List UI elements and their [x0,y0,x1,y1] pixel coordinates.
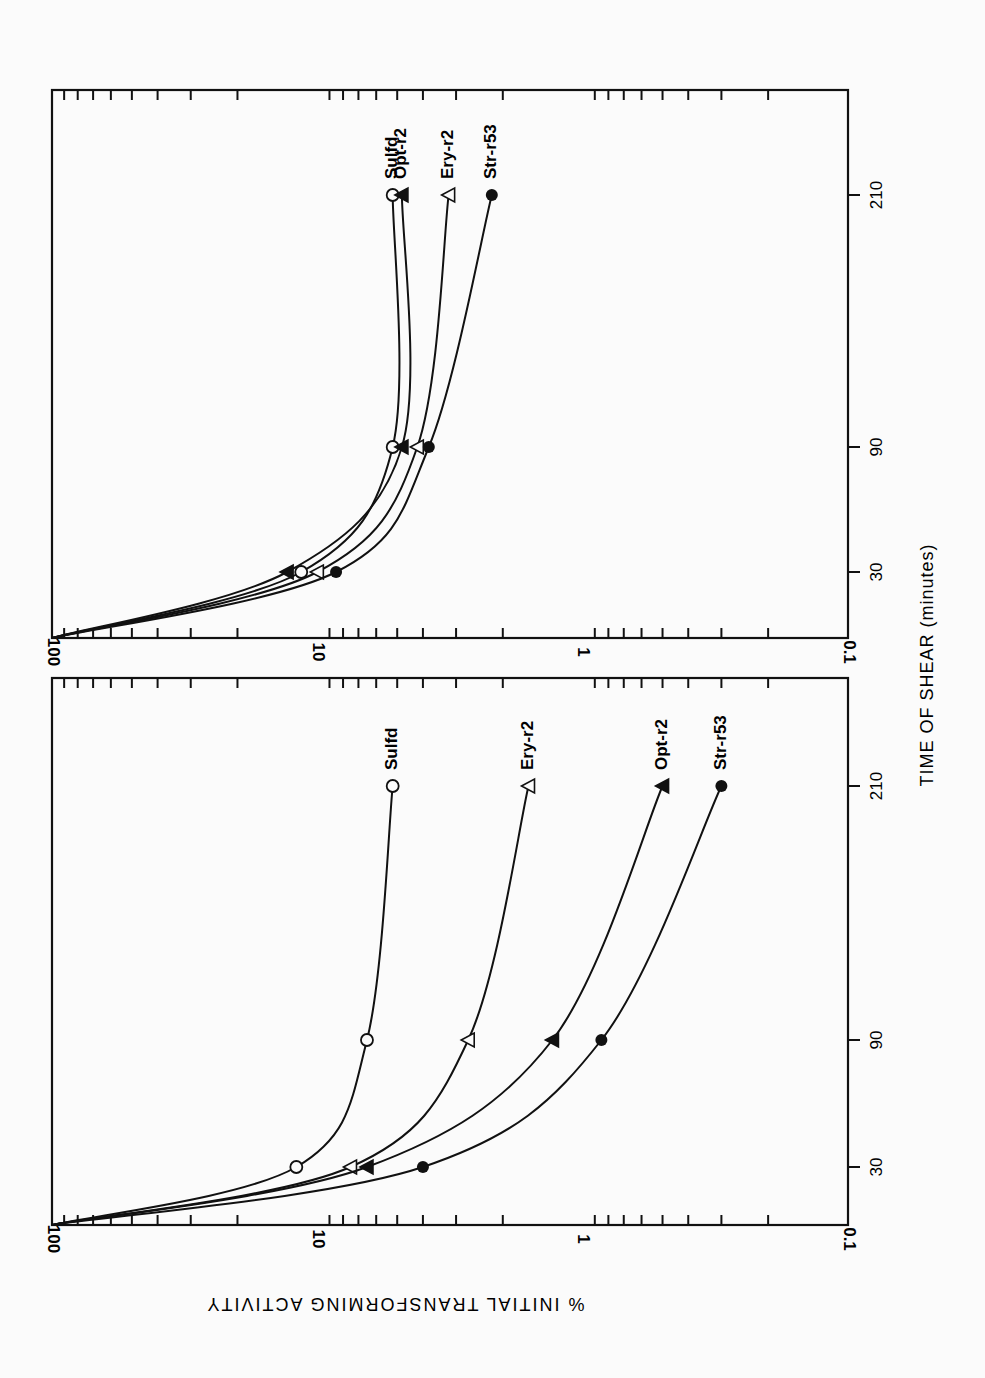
y-tick-label: 10 [309,643,328,662]
open-triangle-marker [410,440,423,454]
filled-triangle-marker [656,779,669,793]
filled-circle-marker [423,441,435,453]
filled-circle-marker [417,1161,429,1173]
series-label: Ery-r2 [438,130,457,179]
panel-upper: 1001010.13090210SulfdOpt-r2Ery-r2Str-r53 [44,90,887,666]
x-tick-label: 30 [867,1158,886,1177]
series-sulfd: Sulfd [52,137,401,639]
open-circle-marker [361,1034,373,1046]
x-tick-label: 90 [867,1031,886,1050]
y-tick-label: 1 [574,647,593,656]
y-tick-label: 1 [574,1234,593,1243]
open-triangle-marker [461,1033,474,1047]
series-opt-r2: Opt-r2 [52,128,410,638]
series-label: Opt-r2 [391,128,410,179]
x-tick-label: 30 [867,563,886,582]
series-label: Str-r53 [481,124,500,179]
filled-circle-marker [715,780,727,792]
series-opt-r2: Opt-r2 [52,719,671,1225]
series-label: Str-r53 [711,715,730,770]
open-circle-marker [387,780,399,792]
x-axis-label: TIME OF SHEAR (minutes) [917,543,937,786]
y-tick-label: 10 [309,1230,328,1249]
x-tick-label: 210 [867,181,886,209]
series-label: Opt-r2 [652,719,671,770]
series-label: Sulfd [382,728,401,771]
filled-circle-marker [595,1034,607,1046]
series-label: Ery-r2 [518,721,537,770]
panel-lower: 1001010.13090210SulfdEry-r2Opt-r2Str-r53 [44,678,887,1253]
y-tick-label: 0.1 [840,640,859,664]
open-circle-marker [290,1161,302,1173]
y-tick-label: 0.1 [840,1227,859,1251]
y-axis-label: % INITIAL TRANSFORMING ACTIVITY [205,1294,584,1314]
x-tick-label: 90 [867,438,886,457]
y-tick-label: 100 [44,638,63,666]
open-circle-marker [295,566,307,578]
x-tick-label: 210 [867,772,886,800]
open-triangle-marker [310,565,323,579]
y-tick-label: 100 [44,1225,63,1253]
series-ery-r2: Ery-r2 [52,721,537,1225]
filled-circle-marker [330,566,342,578]
filled-triangle-marker [280,565,293,579]
series-sulfd: Sulfd [52,728,401,1226]
series-ery-r2: Ery-r2 [52,130,457,638]
filled-circle-marker [486,189,498,201]
series-str-r53: Str-r53 [52,124,500,638]
figure: 1001010.13090210SulfdOpt-r2Ery-r2Str-r53… [0,0,985,1378]
